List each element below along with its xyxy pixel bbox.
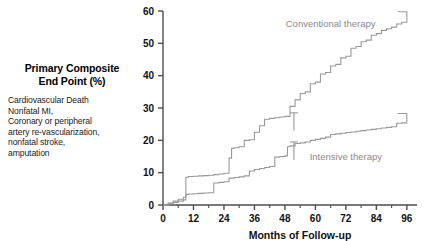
y-tick-label: 0 [148, 200, 154, 211]
x-tick-label: 72 [340, 213, 352, 224]
x-tick-label: 24 [218, 213, 230, 224]
series-end-bracket-intensive [398, 114, 407, 123]
figure-panel: Primary Composite End Point (%) Cardiova… [0, 0, 430, 241]
x-tick-label: 0 [160, 213, 166, 224]
y-tick-label: 40 [143, 70, 155, 81]
series-label-intensive: Intensive therapy [310, 151, 383, 162]
x-tick-label: 12 [188, 213, 200, 224]
y-tick-label: 30 [143, 103, 155, 114]
series-label-conventional: Conventional therapy [286, 18, 376, 29]
axes-group: 010203040506001224364860728496Months of … [143, 6, 417, 241]
kaplan-meier-chart: 010203040506001224364860728496Months of … [0, 0, 430, 241]
series-group [163, 12, 407, 205]
x-tick-label: 60 [310, 213, 322, 224]
x-tick-label: 96 [401, 213, 413, 224]
series-step-line-conventional [163, 21, 407, 205]
series-step-line-intensive [163, 123, 407, 205]
y-tick-label: 20 [143, 135, 155, 146]
x-axis-title: Months of Follow-up [249, 229, 352, 241]
y-tick-label: 60 [143, 6, 155, 17]
y-tick-label: 10 [143, 167, 155, 178]
x-tick-label: 48 [279, 213, 291, 224]
y-tick-label: 50 [143, 38, 155, 49]
series-end-bracket-conventional [398, 12, 407, 21]
x-tick-label: 36 [249, 213, 261, 224]
chart-plot: 010203040506001224364860728496Months of … [0, 0, 430, 241]
x-tick-label: 84 [371, 213, 383, 224]
